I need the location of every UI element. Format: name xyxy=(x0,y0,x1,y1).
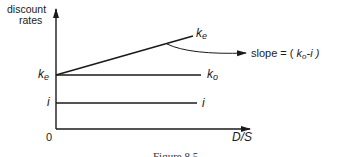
y-axis-label-2: rates xyxy=(19,14,42,26)
left-ke-label: ke xyxy=(38,67,49,82)
ke-line-label: ke xyxy=(196,26,207,41)
slope-annotation: slope = ( ko-i ) xyxy=(251,47,320,61)
figure-caption: Figure 8.5 xyxy=(153,150,199,157)
left-i-label: i xyxy=(47,95,50,109)
x-axis-label: D/S xyxy=(232,130,252,144)
i-line-label: i xyxy=(202,96,205,110)
ke-line xyxy=(56,36,193,75)
figure-diagram: discount rates ke i 0 ke ko i slope = ( … xyxy=(0,0,342,157)
origin-label: 0 xyxy=(46,131,52,143)
ko-line-label: ko xyxy=(207,67,218,82)
slope-arrow xyxy=(167,44,246,53)
